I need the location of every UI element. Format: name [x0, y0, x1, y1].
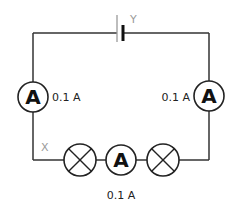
point-x-label: X — [41, 141, 49, 154]
ammeter-right-symbol: A — [201, 84, 217, 108]
ammeter-left-symbol: A — [25, 85, 41, 109]
ammeter-bottom-symbol: A — [113, 148, 129, 172]
lamp-right — [147, 144, 179, 176]
ammeter-bottom-reading: 0.1 A — [107, 189, 136, 202]
lamp-left — [64, 144, 96, 176]
battery-cell: Y — [117, 13, 137, 42]
ammeter-right-reading: 0.1 A — [161, 91, 190, 104]
ammeter-left: A 0.1 A — [18, 82, 81, 112]
ammeter-left-reading: 0.1 A — [52, 91, 81, 104]
circuit-diagram: Y A 0.1 A A 0.1 A X A 0.1 A — [0, 0, 235, 211]
ammeter-bottom: A 0.1 A — [106, 145, 136, 202]
battery-label: Y — [129, 13, 137, 26]
ammeter-right: A 0.1 A — [161, 81, 224, 111]
